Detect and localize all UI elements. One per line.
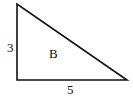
triangle-diagram: 3 B 5: [0, 0, 133, 101]
horizontal-side-label: 5: [67, 82, 74, 97]
right-triangle: [17, 4, 127, 80]
region-label: B: [49, 46, 58, 61]
vertical-side-label: 3: [7, 40, 14, 55]
